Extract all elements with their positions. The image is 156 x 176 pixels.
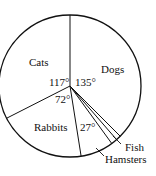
angle-rabbits: 72°: [55, 93, 70, 105]
angle-cats: 117°: [49, 76, 70, 88]
angle-unlabeled-slice: 27°: [80, 121, 95, 133]
label-rabbits: Rabbits: [34, 121, 68, 133]
label-dogs: Dogs: [101, 63, 124, 75]
pie-chart: Cats Dogs Rabbits Fish Hamsters 117° 135…: [0, 0, 156, 176]
label-hamsters: Hamsters: [105, 153, 147, 165]
angle-dogs: 135°: [75, 76, 96, 88]
label-fish: Fish: [125, 141, 144, 153]
label-cats: Cats: [29, 56, 49, 68]
